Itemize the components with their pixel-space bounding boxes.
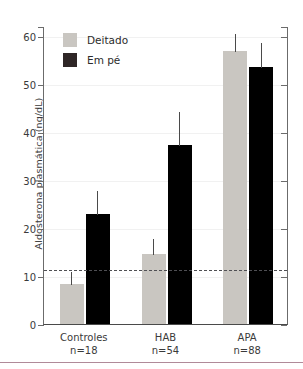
x-axis-category: HAB	[155, 332, 176, 343]
y-axis-tick-right	[281, 229, 287, 230]
error-bar	[179, 112, 180, 146]
y-axis-tick-right	[281, 37, 287, 38]
y-axis-tick-label: 40	[23, 127, 36, 138]
legend-swatch	[63, 53, 77, 67]
bar	[142, 254, 166, 324]
y-axis-tick-right	[281, 133, 287, 134]
bar	[60, 284, 84, 324]
axis-top-tick	[38, 27, 44, 28]
x-axis-sample-size: n=54	[125, 344, 207, 357]
x-axis-group-label: Controlesn=18	[43, 331, 125, 357]
bar	[249, 67, 273, 324]
legend-label: Em pé	[87, 54, 120, 66]
legend-swatch	[63, 33, 77, 47]
y-axis-tick	[38, 133, 44, 134]
y-axis-tick	[38, 229, 44, 230]
y-axis-tick-label: 50	[23, 79, 36, 90]
legend-item: Deitado	[63, 30, 128, 50]
chart-figure: Aldosterona plasmática (ng/dL) 010203040…	[0, 0, 303, 369]
x-axis-sample-size: n=88	[206, 344, 288, 357]
y-axis-tick	[38, 85, 44, 86]
error-bar	[261, 43, 262, 68]
y-axis-tick-right	[281, 85, 287, 86]
error-bar	[97, 191, 98, 215]
y-axis-tick	[38, 277, 44, 278]
legend-label: Deitado	[87, 34, 128, 46]
y-axis-tick	[38, 325, 44, 326]
y-axis-tick	[38, 37, 44, 38]
y-axis-tick-label: 0	[30, 320, 36, 331]
y-axis-tick-right	[281, 277, 287, 278]
y-axis-tick	[38, 181, 44, 182]
y-axis-tick-label: 30	[23, 175, 36, 186]
x-axis-category: APA	[238, 332, 257, 343]
bar	[168, 145, 192, 324]
chart-legend: DeitadoEm pé	[63, 30, 128, 70]
plot-area: 0102030405060	[43, 27, 288, 325]
x-axis-group-label: APAn=88	[206, 331, 288, 357]
error-bar	[235, 34, 236, 52]
error-bar	[153, 239, 154, 254]
bar	[223, 51, 247, 324]
y-axis-tick-label: 60	[23, 31, 36, 42]
reference-line	[44, 270, 287, 271]
y-axis-tick-label: 10	[23, 271, 36, 282]
y-axis-tick-right	[281, 325, 287, 326]
y-axis-tick-right	[281, 181, 287, 182]
legend-item: Em pé	[63, 50, 128, 70]
x-axis-sample-size: n=18	[43, 344, 125, 357]
y-axis-tick-label: 20	[23, 223, 36, 234]
x-axis-category: Controles	[60, 332, 108, 343]
error-bar	[71, 272, 72, 285]
bottom-rule	[0, 362, 303, 363]
x-axis-group-label: HABn=54	[125, 331, 207, 357]
axis-top-tick	[281, 27, 287, 28]
